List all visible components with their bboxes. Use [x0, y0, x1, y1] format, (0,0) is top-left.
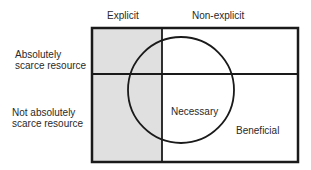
row-label-scarce-line1: Absolutely	[15, 49, 61, 60]
row-label-not-scarce-line2: scarce resource	[12, 118, 83, 129]
venn-diagram	[0, 0, 311, 170]
row-label-scarce-line2: scarce resource	[15, 60, 86, 71]
region-label-beneficial: Beneficial	[236, 125, 279, 136]
explicit-shaded-region	[92, 28, 162, 162]
region-label-necessary: Necessary	[171, 106, 218, 117]
column-label-explicit: Explicit	[107, 10, 139, 21]
row-label-not-scarce-line1: Not absolutely	[12, 107, 75, 118]
column-label-non-explicit: Non-explicit	[192, 10, 244, 21]
